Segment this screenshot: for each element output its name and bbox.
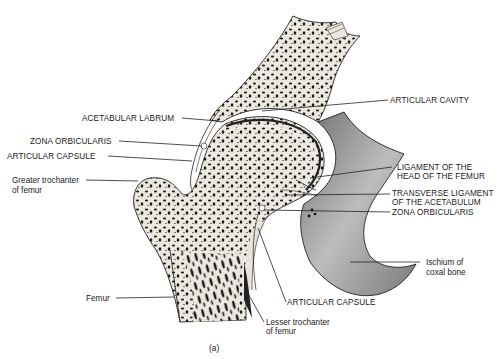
- label-transverse-ligament-line1: TRANSVERSE LIGAMENT: [392, 189, 494, 198]
- label-ligament-head-line1: LIGAMENT OF THE: [397, 163, 472, 172]
- label-articular-capsule-left: ARTICULAR CAPSULE: [7, 152, 95, 161]
- label-ligament-head-line2: HEAD OF THE FEMUR: [397, 172, 485, 181]
- label-zona-orbicularis-left: ZONA ORBICULARIS: [30, 137, 112, 146]
- label-greater-trochanter-line2: of femur: [12, 186, 42, 195]
- label-lesser-trochanter-line1: Lesser trochanter: [266, 318, 330, 327]
- hip-joint-diagram: ACETABULAR LABRUM ZONA ORBICULARIS ARTIC…: [0, 0, 503, 359]
- label-ischium-line1: Ischium of: [426, 258, 463, 267]
- label-acetabular-labrum: ACETABULAR LABRUM: [82, 114, 174, 123]
- label-femur: Femur: [86, 294, 110, 303]
- label-greater-trochanter-line1: Greater trochanter: [12, 176, 79, 185]
- figure-caption: (a): [209, 344, 219, 353]
- label-articular-cavity: ARTICULAR CAVITY: [390, 96, 469, 105]
- label-ischium-line2: coxal bone: [426, 268, 466, 277]
- ilium-bone: [210, 16, 360, 122]
- label-transverse-ligament-line2: OF THE ACETABULUM: [392, 198, 481, 207]
- label-zona-orbicularis-right: ZONA ORBICULARIS: [392, 208, 474, 217]
- label-lesser-trochanter-line2: of femur: [266, 327, 296, 336]
- label-articular-capsule-bottom: ARTICULAR CAPSULE: [287, 298, 375, 307]
- femur-bone: [134, 117, 325, 322]
